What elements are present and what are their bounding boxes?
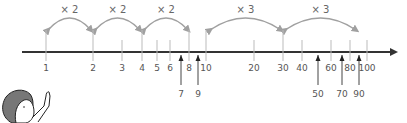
tick-label-10: 10 bbox=[200, 63, 211, 73]
tick-label-60: 60 bbox=[325, 63, 336, 73]
tick-label-4: 4 bbox=[139, 63, 145, 73]
multiplier-label: × 2 bbox=[157, 4, 175, 15]
number-line-axis bbox=[22, 48, 398, 56]
tick-label-80: 80 bbox=[344, 63, 355, 73]
multiplier-label: × 3 bbox=[237, 4, 255, 15]
tick-label-5: 5 bbox=[154, 63, 160, 73]
tick-label-9: 9 bbox=[195, 89, 201, 99]
multiplier-label: × 2 bbox=[109, 4, 127, 15]
tick-label-70: 70 bbox=[336, 89, 347, 99]
number-line-svg bbox=[0, 0, 407, 123]
tick-label-6: 6 bbox=[167, 63, 173, 73]
tick-marks bbox=[46, 30, 367, 61]
multiplier-label: × 3 bbox=[312, 4, 330, 15]
tick-label-3: 3 bbox=[119, 63, 125, 73]
tick-label-2: 2 bbox=[90, 63, 96, 73]
multiplier-arcs bbox=[48, 18, 356, 30]
log-number-line-diagram: 123456789102030405060708090100 × 2× 2× 2… bbox=[0, 0, 407, 123]
tick-label-1: 1 bbox=[43, 63, 49, 73]
tick-label-90: 90 bbox=[353, 89, 364, 99]
tick-label-8: 8 bbox=[186, 63, 192, 73]
tick-label-100: 100 bbox=[358, 63, 375, 73]
person-pointing-icon bbox=[3, 90, 50, 123]
tick-label-40: 40 bbox=[296, 63, 307, 73]
tick-label-20: 20 bbox=[248, 63, 259, 73]
tick-label-7: 7 bbox=[178, 89, 184, 99]
tick-label-50: 50 bbox=[312, 89, 323, 99]
multiplier-label: × 2 bbox=[61, 4, 79, 15]
tick-label-30: 30 bbox=[277, 63, 288, 73]
